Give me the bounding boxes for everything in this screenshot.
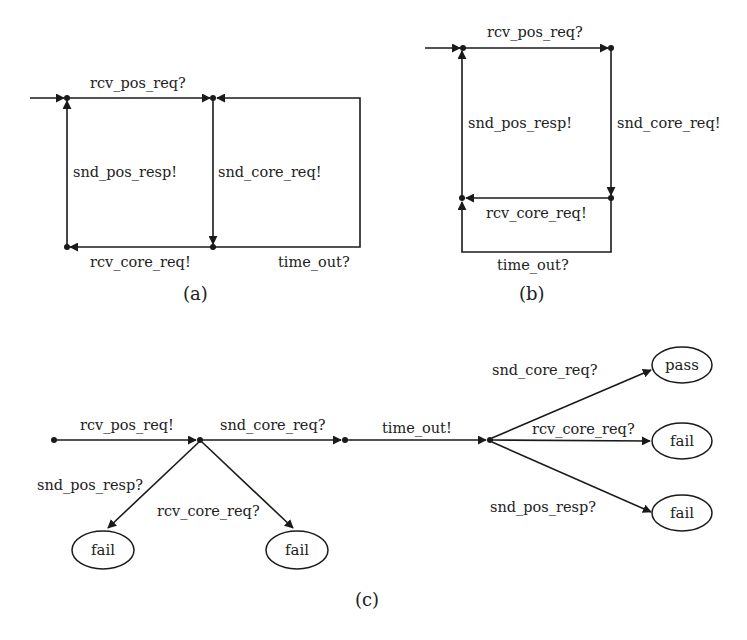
edge-c-rcv-core-req-fail-2 bbox=[492, 440, 650, 441]
label-b-time-out: time_out? bbox=[497, 257, 569, 274]
label-a-rcv-pos-req: rcv_pos_req? bbox=[90, 75, 186, 92]
label-a-rcv-core-req: rcv_core_req! bbox=[90, 254, 191, 271]
state-a-3 bbox=[64, 244, 70, 250]
label-b-snd-core-req: snd_core_req! bbox=[617, 115, 721, 132]
state-a-1 bbox=[210, 95, 216, 101]
label-b-snd-pos-resp: snd_pos_resp! bbox=[468, 115, 572, 132]
diagram-c: fail fail pass fail fail rcv_pos_req! sn… bbox=[37, 347, 712, 610]
state-c-0 bbox=[51, 437, 57, 443]
state-a-0 bbox=[64, 95, 70, 101]
label-b-rcv-core-req: rcv_core_req! bbox=[486, 205, 587, 222]
state-c-1 bbox=[197, 437, 203, 443]
label-c-time-out: time_out! bbox=[382, 420, 452, 437]
label-c-rcv-core-req: rcv_core_req? bbox=[157, 503, 260, 520]
label-a-snd-pos-resp: snd_pos_resp! bbox=[73, 164, 177, 181]
state-b-0 bbox=[460, 45, 466, 51]
figure-canvas: rcv_pos_req? snd_pos_resp! snd_core_req!… bbox=[0, 0, 747, 640]
label-c-snd-core-req-pass: snd_core_req? bbox=[492, 362, 598, 379]
label-a-snd-core-req: snd_core_req! bbox=[218, 164, 322, 181]
diagram-b: rcv_pos_req? snd_pos_resp! snd_core_req!… bbox=[425, 24, 721, 304]
state-b-2 bbox=[608, 195, 614, 201]
diagram-a: rcv_pos_req? snd_pos_resp! snd_core_req!… bbox=[30, 75, 360, 304]
verdict-label-4: fail bbox=[670, 432, 694, 450]
state-a-2 bbox=[210, 244, 216, 250]
caption-a: (a) bbox=[183, 283, 208, 304]
label-c-snd-core-req: snd_core_req? bbox=[220, 417, 326, 434]
caption-c: (c) bbox=[355, 589, 379, 610]
verdict-label-3: pass bbox=[665, 356, 699, 374]
state-b-3 bbox=[459, 195, 465, 201]
label-c-rcv-core-req-fail: rcv_core_req? bbox=[532, 421, 635, 438]
state-c-2 bbox=[342, 437, 348, 443]
label-c-rcv-pos-req: rcv_pos_req! bbox=[80, 417, 174, 434]
verdict-label-1: fail bbox=[91, 541, 115, 559]
verdict-label-2: fail bbox=[285, 541, 309, 559]
state-b-1 bbox=[608, 45, 614, 51]
caption-b: (b) bbox=[519, 283, 545, 304]
label-c-snd-pos-resp: snd_pos_resp? bbox=[37, 477, 143, 494]
label-b-rcv-pos-req: rcv_pos_req? bbox=[487, 24, 583, 41]
label-c-snd-pos-resp-fail: snd_pos_resp? bbox=[490, 499, 596, 516]
label-a-time-out: time_out? bbox=[278, 254, 350, 271]
verdict-label-5: fail bbox=[670, 504, 694, 522]
state-c-3 bbox=[487, 437, 493, 443]
